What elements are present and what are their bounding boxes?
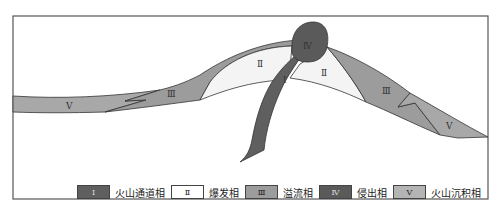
legend-swatch-v: Ⅴ xyxy=(393,185,426,199)
legend-label-iii: 溢流相 xyxy=(283,185,313,200)
legend-item-i: Ⅰ 火山通道相 xyxy=(77,185,165,200)
volcanic-facies-diagram: V Ⅲ Ⅱ Ⅰ Ⅳ Ⅱ Ⅲ V xyxy=(0,0,502,214)
label-crater-iv: Ⅳ xyxy=(303,41,313,51)
legend: Ⅰ 火山通道相 Ⅱ 爆发相 Ⅲ 溢流相 Ⅳ 侵出相 Ⅴ 火山沉积相 xyxy=(77,184,487,200)
legend-swatch-iv: Ⅳ xyxy=(319,185,352,199)
legend-swatch-ii: Ⅱ xyxy=(171,185,204,199)
legend-item-iv: Ⅳ 侵出相 xyxy=(319,185,387,200)
legend-item-ii: Ⅱ 爆发相 xyxy=(171,185,239,200)
label-right-ii: Ⅱ xyxy=(321,68,327,78)
legend-swatch-i: Ⅰ xyxy=(77,185,110,199)
label-left-v: V xyxy=(65,101,73,111)
legend-label-v: 火山沉积相 xyxy=(431,185,481,200)
legend-label-iv: 侵出相 xyxy=(357,185,387,200)
label-conduit-i: Ⅰ xyxy=(283,75,287,85)
legend-label-i: 火山通道相 xyxy=(115,185,165,200)
label-right-v: V xyxy=(445,121,453,131)
legend-swatch-iii: Ⅲ xyxy=(245,185,278,199)
label-left-ii: Ⅱ xyxy=(257,59,263,69)
legend-label-ii: 爆发相 xyxy=(209,185,239,200)
label-left-iii: Ⅲ xyxy=(167,89,176,99)
legend-item-v: Ⅴ 火山沉积相 xyxy=(393,185,481,200)
legend-item-iii: Ⅲ 溢流相 xyxy=(245,185,313,200)
label-right-iii: Ⅲ xyxy=(382,86,391,96)
